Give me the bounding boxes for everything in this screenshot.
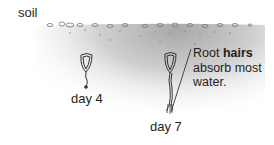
root-hairs-callout: Root hairs absorb most water. <box>193 46 273 90</box>
callout-bold: hairs <box>223 46 253 60</box>
soil-label: soil <box>18 6 38 20</box>
callout-prefix: Root <box>193 46 223 60</box>
day-7-label: day 7 <box>150 120 182 134</box>
day-4-label: day 4 <box>71 92 103 106</box>
callout-suffix: absorb most water. <box>193 61 262 90</box>
